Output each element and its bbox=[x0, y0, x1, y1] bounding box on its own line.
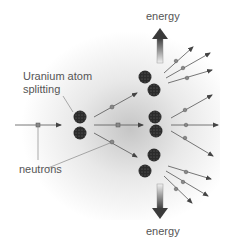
atom-secondary-bot-a bbox=[148, 149, 161, 162]
atom-primary-bottom bbox=[74, 127, 87, 140]
uranium-leader-line bbox=[63, 96, 73, 112]
atom-primary-top bbox=[74, 111, 87, 124]
splitting-label: splitting bbox=[23, 83, 60, 95]
diagram-canvas bbox=[0, 0, 230, 249]
incoming-neutron bbox=[15, 123, 61, 127]
energy-arrow-down-icon bbox=[152, 184, 168, 219]
neutrons-label: neutrons bbox=[19, 163, 62, 175]
first-gen-neutron-dots bbox=[110, 105, 120, 144]
atom-secondary-mid-b bbox=[150, 125, 163, 138]
atom-secondary-top-b bbox=[148, 84, 161, 97]
atom-secondary-mid-a bbox=[149, 111, 162, 124]
energy-label-top: energy bbox=[146, 10, 180, 22]
atom-secondary-top-a bbox=[139, 71, 152, 84]
atom-secondary-bot-b bbox=[139, 165, 152, 178]
second-gen-neutrons bbox=[164, 47, 218, 203]
fission-diagram: energy Uranium atom splitting neutrons e… bbox=[0, 0, 230, 249]
uranium-label: Uranium atom bbox=[23, 70, 92, 82]
energy-label-bottom: energy bbox=[146, 225, 180, 237]
energy-arrow-up-icon bbox=[152, 28, 168, 63]
